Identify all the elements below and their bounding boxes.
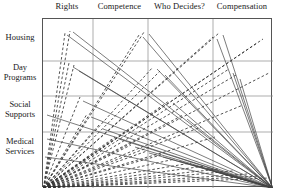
row-label-medical-services-line2: Services [6, 146, 35, 156]
row-label-social-supports-line1: Social [9, 99, 30, 109]
plot-area [42, 18, 272, 187]
column-header-competence: Competence [92, 1, 147, 12]
figure-root: Rights Competence Who Decides? Compensat… [0, 0, 281, 193]
column-header-who-decides: Who Decides? [147, 1, 212, 12]
fan-line-left-fan [44, 75, 237, 188]
fan-line-right-fan [91, 117, 273, 188]
row-label-medical-services-line1: Medical [6, 136, 34, 146]
fan-line-left-fan [44, 67, 154, 188]
row-label-social-supports: Social Supports [0, 100, 40, 119]
fan-line-left-fan [44, 166, 206, 188]
row-label-day-programs: Day Programs [0, 63, 40, 82]
fan-line-left-fan [44, 63, 70, 188]
data-lines-layer [43, 19, 273, 188]
row-label-social-supports-line2: Supports [5, 109, 35, 119]
fan-line-left-fan [44, 35, 140, 188]
fan-line-left-fan [44, 125, 100, 188]
column-header-compensation: Compensation [208, 1, 276, 12]
row-label-day-programs-line1: Day [13, 62, 27, 72]
fan-line-left-fan [44, 169, 220, 188]
row-label-housing: Housing [0, 33, 40, 43]
row-label-medical-services: Medical Services [0, 137, 40, 156]
fan-line-left-fan [44, 151, 148, 188]
column-header-rights: Rights [42, 1, 92, 12]
fan-line-left-fan [44, 31, 71, 188]
fan-line-left-fan [44, 33, 66, 188]
fan-line-left-fan [44, 65, 75, 188]
fan-line-left-fan [44, 32, 145, 188]
row-label-day-programs-line2: Programs [4, 72, 37, 82]
fan-line-right-fan [223, 35, 273, 188]
fan-line-left-fan [44, 39, 264, 188]
